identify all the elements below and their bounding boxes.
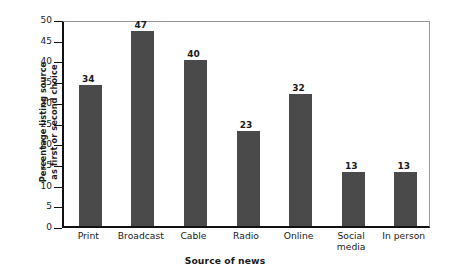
bar-value-label: 13 (384, 162, 424, 171)
y-axis-tick-label: 0 (36, 223, 52, 232)
y-axis-tick-label: 35 (36, 78, 52, 87)
bar (289, 94, 312, 226)
y-axis-tick-label: 15 (36, 161, 52, 170)
bar (184, 60, 207, 226)
y-axis-tick-label: 20 (36, 140, 52, 149)
x-axis-title: Source of news (0, 255, 450, 266)
y-axis-tick (54, 228, 62, 229)
x-axis-tick-label: Social media (325, 231, 377, 252)
bar (237, 131, 260, 226)
bar-value-label: 23 (226, 121, 266, 130)
x-axis-tick-label: Broadcast (115, 231, 167, 242)
y-axis-tick (54, 83, 62, 84)
y-axis-tick (54, 42, 62, 43)
bar (131, 31, 154, 226)
bar-value-label: 47 (121, 21, 161, 30)
y-axis-tick-label: 5 (36, 202, 52, 211)
y-axis-tick (54, 207, 62, 208)
y-axis-tick (54, 187, 62, 188)
bar (394, 172, 417, 226)
bar-value-label: 40 (173, 50, 213, 59)
y-axis-tick-label: 45 (36, 37, 52, 46)
bar (342, 172, 365, 226)
y-axis-tick (54, 21, 62, 22)
bar-value-label: 34 (68, 75, 108, 84)
y-axis-tick (54, 104, 62, 105)
x-axis-tick-label: Cable (167, 231, 219, 242)
y-axis-tick-label: 25 (36, 120, 52, 129)
y-axis-tick-label: 40 (36, 57, 52, 66)
y-axis-tick-label: 50 (36, 16, 52, 25)
bar-value-label: 13 (331, 162, 371, 171)
bar-chart: Percentage listing source as first or se… (0, 0, 450, 274)
y-axis-tick (54, 145, 62, 146)
y-axis-tick-label: 10 (36, 182, 52, 191)
x-axis-tick-label: Online (273, 231, 325, 242)
x-axis-tick-label: In person (378, 231, 430, 242)
bar (79, 85, 102, 226)
bar-value-label: 32 (279, 84, 319, 93)
y-axis-tick (54, 166, 62, 167)
x-axis-tick-label: Print (62, 231, 114, 242)
y-axis-tick (54, 125, 62, 126)
y-axis-tick (54, 62, 62, 63)
y-axis-tick-label: 30 (36, 99, 52, 108)
x-axis-tick-label: Radio (220, 231, 272, 242)
